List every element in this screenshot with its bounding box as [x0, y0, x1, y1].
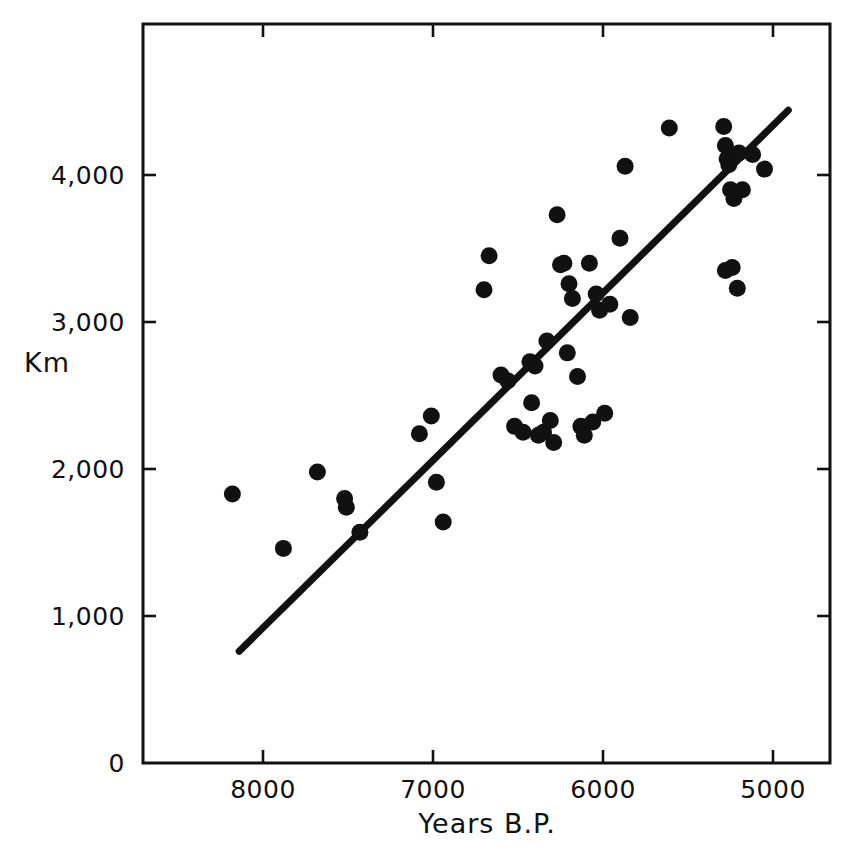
data-point: [411, 425, 428, 442]
data-point: [428, 474, 445, 491]
data-point: [601, 296, 618, 313]
data-point: [224, 485, 241, 502]
data-point: [545, 434, 562, 451]
data-point: [499, 372, 516, 389]
data-point: [527, 358, 544, 375]
data-point: [596, 405, 613, 422]
x-tick-label: 7000: [400, 775, 466, 804]
data-point: [523, 394, 540, 411]
data-point: [559, 344, 576, 361]
data-point: [581, 255, 598, 272]
data-point: [564, 290, 581, 307]
plot-canvas: 01,0002,0003,0004,000 8000700060005000 K…: [0, 0, 856, 850]
scatter-chart: 01,0002,0003,0004,000 8000700060005000 K…: [0, 0, 856, 850]
data-point: [435, 513, 452, 530]
data-point: [734, 181, 751, 198]
data-point: [661, 119, 678, 136]
data-point: [275, 540, 292, 557]
data-point: [538, 333, 555, 350]
y-tick-label: 4,000: [51, 161, 125, 190]
x-tick-label: 5000: [740, 775, 806, 804]
data-point: [481, 247, 498, 264]
data-point: [617, 158, 634, 175]
y-tick-label: 0: [109, 749, 125, 778]
y-tick-label: 3,000: [51, 308, 125, 337]
x-tick-label: 6000: [570, 775, 636, 804]
data-point: [351, 524, 368, 541]
data-point: [744, 146, 761, 163]
y-axis-title: Km: [24, 347, 70, 378]
data-point: [549, 206, 566, 223]
data-point: [542, 412, 559, 429]
data-point: [588, 286, 605, 303]
data-point: [612, 230, 629, 247]
x-axis-title: Years B.P.: [417, 808, 556, 839]
data-point: [622, 309, 639, 326]
data-point: [338, 499, 355, 516]
y-tick-label: 1,000: [51, 602, 125, 631]
plot-frame: [143, 24, 830, 763]
data-points-group: [224, 118, 773, 557]
data-point: [476, 281, 493, 298]
data-point: [724, 259, 741, 276]
y-tick-labels: 01,0002,0003,0004,000: [51, 161, 125, 778]
data-point: [515, 424, 532, 441]
data-point: [756, 161, 773, 178]
data-point: [729, 280, 746, 297]
data-point: [569, 368, 586, 385]
y-tick-label: 2,000: [51, 455, 125, 484]
data-point: [555, 255, 572, 272]
data-point: [715, 118, 732, 135]
x-tick-label: 8000: [230, 775, 296, 804]
data-point: [309, 463, 326, 480]
x-tick-labels: 8000700060005000: [230, 775, 806, 804]
data-point: [561, 275, 578, 292]
axes-group: [143, 24, 830, 763]
ticks-group: [143, 24, 830, 763]
data-point: [423, 408, 440, 425]
